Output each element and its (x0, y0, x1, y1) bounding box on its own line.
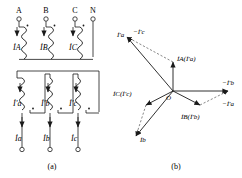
terminal-label-A: A (16, 6, 22, 15)
terminal-label-B: B (43, 6, 48, 15)
current-label-Ib-prime: İ'b (40, 99, 49, 108)
phasor-neg-I-b-prime (127, 37, 173, 62)
phasor-label-neg-I-b-prime: −İ'c (133, 28, 146, 36)
output-terminal-a (20, 147, 24, 151)
phasor-I-B-prime-b (173, 91, 200, 105)
zigzag-link-c-to-right (86, 110, 99, 113)
phasor-label-I-A-prime-a: İA(İ'a) (176, 55, 196, 63)
terminal-node-N (91, 17, 95, 21)
polarity-dot-secondary-a (32, 108, 34, 110)
current-label-IC: İC (68, 43, 78, 52)
terminal-node-C (73, 17, 77, 21)
current-label-IB: İB (39, 43, 48, 52)
current-label-Ib: İb (42, 134, 50, 143)
polarity-dot-secondary-c (88, 108, 90, 110)
phasor-label-neg-I-c-prime: −İ'a (222, 100, 235, 108)
primary-winding-C (78, 27, 83, 59)
current-label-IA: İA (12, 43, 21, 52)
output-terminal-b (48, 147, 52, 151)
terminal-label-C: C (72, 6, 77, 15)
polarity-dot-secondary-b (60, 108, 62, 110)
output-terminal-c (76, 147, 80, 151)
current-label-Ia-prime: İ'a (12, 99, 21, 108)
terminal-node-A (17, 17, 21, 21)
primary-winding-B (49, 27, 54, 59)
panel-b-caption: (b) (171, 162, 181, 171)
polarity-dot-primary-A (27, 25, 29, 27)
terminal-label-N: N (90, 6, 96, 15)
phasor-I-a-prime (127, 37, 173, 91)
current-label-Ia: İa (14, 134, 22, 143)
current-label-Ic-prime: İ'c (68, 99, 77, 108)
terminal-node-B (44, 17, 48, 21)
phasor-neg-I-a-prime (136, 105, 146, 136)
panel-b: İA(İ'a) İB(İ'b) İC(İ'c) İ'a İb −İ'b −İ'c… (112, 28, 235, 171)
panel-a-caption: (a) (48, 162, 57, 171)
phasor-label-I-a-prime: İ'a (116, 31, 125, 39)
phasor-label-I-C-prime-c: İC(İ'c) (112, 90, 132, 98)
current-label-Ic: İc (70, 134, 78, 143)
polarity-dot-primary-B (54, 25, 56, 27)
polarity-dot-primary-C (83, 25, 85, 27)
figure-svg: A B C N İA İB İC (0, 0, 242, 178)
phasor-label-I-B-prime-b: İB(İ'b) (180, 113, 200, 121)
primary-winding-A (22, 27, 27, 59)
panel-a: A B C N İA İB İC (12, 6, 99, 171)
phasor-label-I-b: −İ'b (222, 79, 235, 87)
phasor-origin-label: O (166, 94, 171, 102)
phasor-label-I-c: İb (139, 136, 146, 144)
figure-container: A B C N İA İB İC (0, 0, 242, 178)
